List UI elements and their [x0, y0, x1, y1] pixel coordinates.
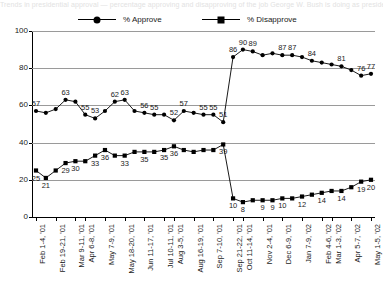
- x-axis-label: Mar 9-11, '01: [78, 224, 86, 267]
- approve-point: [201, 113, 205, 117]
- disapprove-point: [54, 168, 58, 172]
- approve-value-label: 62: [111, 91, 119, 99]
- x-tick: [282, 218, 283, 221]
- approve-point: [241, 48, 245, 52]
- approve-point: [211, 113, 215, 117]
- disapprove-point: [369, 178, 373, 182]
- approve-point: [54, 107, 58, 111]
- approve-point: [359, 74, 363, 78]
- square-marker-icon: [218, 16, 225, 23]
- approve-value-label: 87: [278, 44, 286, 52]
- disapprove-point: [192, 150, 196, 154]
- x-axis-label: May 18-20, '01: [128, 224, 136, 273]
- disapprove-point: [211, 148, 215, 152]
- circle-marker-icon: [94, 16, 101, 23]
- approve-value-label: 57: [180, 100, 188, 108]
- disapprove-value-label: 20: [367, 184, 375, 192]
- disapprove-point: [34, 168, 38, 172]
- x-axis-label: May 1-5, '02: [374, 224, 382, 265]
- y-axis-label: 100: [15, 27, 28, 35]
- approve-value-label: 86: [229, 46, 237, 54]
- x-axis-label: Apr 5-7, '02: [354, 224, 362, 263]
- x-axis-label: Jun 11-17, '01: [147, 224, 155, 271]
- disapprove-value-label: 25: [32, 175, 40, 183]
- disapprove-point: [73, 159, 77, 163]
- disapprove-point: [172, 144, 176, 148]
- approve-value-label: 81: [337, 55, 345, 63]
- x-tick: [105, 218, 106, 221]
- approve-point: [152, 113, 156, 117]
- approve-point: [123, 98, 127, 102]
- x-axis-label: Aug 16-19, '01: [197, 224, 205, 273]
- approve-point: [172, 118, 176, 122]
- x-axis-label: Dec 6-9, '01: [285, 224, 293, 264]
- x-tick: [194, 218, 195, 221]
- disapprove-point: [152, 150, 156, 154]
- approve-point: [73, 100, 77, 104]
- disapprove-value-label: 10: [229, 202, 237, 210]
- x-tick: [174, 218, 175, 221]
- disapprove-value-label: 21: [42, 182, 50, 190]
- disapprove-point: [132, 150, 136, 154]
- disapprove-value-label: 35: [140, 156, 148, 164]
- chart-screenshot: Trends in presidential approval — percen…: [0, 0, 383, 291]
- disapprove-point: [280, 196, 284, 200]
- disapprove-point: [290, 196, 294, 200]
- disapprove-value-label: 14: [318, 197, 326, 205]
- approve-value-label: 55: [150, 104, 158, 112]
- x-tick: [144, 218, 145, 221]
- x-axis-label: Feb 19-21, '01: [59, 224, 67, 272]
- disapprove-value-label: 9: [261, 204, 265, 212]
- approve-point: [270, 51, 274, 55]
- approve-point: [369, 72, 373, 76]
- approve-point: [142, 111, 146, 115]
- legend-item-approve: % Approve: [78, 12, 162, 27]
- x-tick: [85, 218, 86, 221]
- x-axis-label: Feb 4-6, '02: [325, 224, 333, 264]
- approve-point: [339, 64, 343, 68]
- approve-value-label: 53: [91, 107, 99, 115]
- disapprove-point: [251, 198, 255, 202]
- disapprove-point: [103, 148, 107, 152]
- approve-point: [44, 111, 48, 115]
- disapprove-value-label: 10: [278, 202, 286, 210]
- plot-area: 020406080100 576355536263565552575555518…: [32, 31, 375, 218]
- x-axis-label: Nov 2-4, '01: [266, 224, 274, 264]
- disapprove-value-label: 33: [91, 160, 99, 168]
- disapprove-point: [241, 200, 245, 204]
- x-tick: [243, 218, 244, 221]
- x-axis-label: May 7-9, '01: [108, 224, 116, 265]
- x-tick: [164, 218, 165, 221]
- disapprove-value-label: 9: [270, 204, 274, 212]
- disapprove-point: [300, 194, 304, 198]
- approve-point: [63, 98, 67, 102]
- x-tick: [351, 218, 352, 221]
- approve-point: [280, 53, 284, 57]
- approve-value-label: 55: [81, 104, 89, 112]
- disapprove-value-label: 30: [71, 165, 79, 173]
- x-tick: [75, 218, 76, 221]
- approve-value-label: 63: [121, 89, 129, 97]
- disapprove-value-label: 36: [101, 154, 109, 162]
- disapprove-point: [201, 148, 205, 152]
- disapprove-point: [63, 161, 67, 165]
- approve-point: [320, 61, 324, 65]
- disapprove-value-label: 8: [241, 206, 245, 214]
- x-tick: [233, 218, 234, 221]
- x-axis-label: Oct 11-14, '01: [246, 224, 254, 270]
- disapprove-value-label: 35: [160, 154, 168, 162]
- disapprove-point: [44, 176, 48, 180]
- x-tick: [213, 218, 214, 221]
- x-tick: [56, 218, 57, 221]
- disapprove-value-label: 19: [357, 186, 365, 194]
- y-axis-label: 80: [19, 64, 28, 72]
- y-axis-label: 20: [19, 176, 28, 184]
- x-tick: [332, 218, 333, 221]
- approve-point: [231, 55, 235, 59]
- approve-point: [310, 59, 314, 63]
- approve-point: [329, 62, 333, 66]
- x-axis-label: Jul 10-11, '01: [167, 224, 175, 268]
- disapprove-value-label: 36: [170, 150, 178, 158]
- approve-value-label: 55: [209, 104, 217, 112]
- disapprove-point: [359, 180, 363, 184]
